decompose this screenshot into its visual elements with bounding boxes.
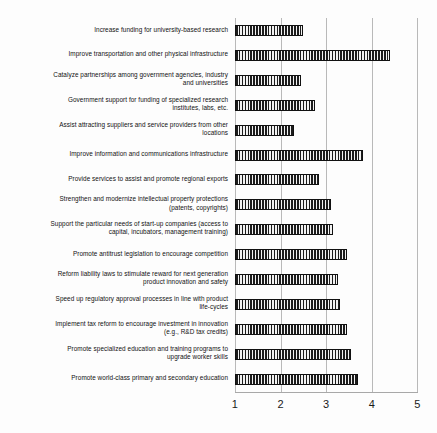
chart-row: Reform liability laws to stimulate rewar… bbox=[0, 267, 437, 292]
bar bbox=[235, 274, 338, 285]
bar bbox=[235, 349, 351, 360]
category-label-line2: capital, incubators, management training… bbox=[23, 228, 228, 236]
category-label: Support the particular needs of start-up… bbox=[23, 220, 228, 236]
bar bbox=[235, 100, 315, 111]
category-label-line1: Assist attracting suppliers and service … bbox=[23, 121, 228, 129]
category-label-line2: (patents, copyrights) bbox=[23, 204, 228, 212]
category-label-line1: Speed up regulatory approval processes i… bbox=[23, 295, 228, 303]
chart-row: Increase funding for university-based re… bbox=[0, 18, 437, 43]
bar bbox=[235, 249, 347, 260]
category-label: Provide services to assist and promote r… bbox=[23, 175, 228, 183]
category-label-line2: and universities bbox=[23, 79, 228, 87]
chart-row: Improve information and communications i… bbox=[0, 143, 437, 168]
bar bbox=[235, 374, 358, 385]
category-label-line2: upgrade worker skills bbox=[23, 353, 228, 361]
category-label-line1: Improve transportation and other physica… bbox=[23, 50, 228, 58]
category-label: Strengthen and modernize intellectual pr… bbox=[23, 195, 228, 211]
category-label: Promote antitrust legislation to encoura… bbox=[23, 250, 228, 258]
category-label-line2: product innovation and safety bbox=[23, 278, 228, 286]
category-label-line1: Implement tax reform to encourage invest… bbox=[23, 320, 228, 328]
category-label-line1: Increase funding for university-based re… bbox=[23, 26, 228, 34]
category-label-line2: locations bbox=[23, 129, 228, 137]
category-label-line1: Strengthen and modernize intellectual pr… bbox=[23, 195, 228, 203]
chart-row: Implement tax reform to encourage invest… bbox=[0, 317, 437, 342]
chart-page: 12345Increase funding for university-bas… bbox=[0, 0, 437, 433]
category-label: Speed up regulatory approval processes i… bbox=[23, 295, 228, 311]
category-label-line1: Reform liability laws to stimulate rewar… bbox=[23, 270, 228, 278]
chart-row: Provide services to assist and promote r… bbox=[0, 167, 437, 192]
bar bbox=[235, 125, 294, 136]
chart-row: Promote antitrust legislation to encoura… bbox=[0, 242, 437, 267]
category-label: Assist attracting suppliers and service … bbox=[23, 121, 228, 137]
category-label-line1: Improve information and communications i… bbox=[23, 150, 228, 158]
category-label-line2: institutes, labs, etc. bbox=[23, 104, 228, 112]
category-label: Catalyze partnerships among government a… bbox=[23, 71, 228, 87]
category-label-line2: (e.g., R&D tax credits) bbox=[23, 328, 228, 336]
category-label-line1: Provide services to assist and promote r… bbox=[23, 175, 228, 183]
category-label: Promote world-class primary and secondar… bbox=[23, 374, 228, 382]
chart-row: Government support for funding of specia… bbox=[0, 93, 437, 118]
x-axis-line bbox=[235, 392, 418, 393]
x-axis-tick-label: 4 bbox=[357, 398, 387, 410]
chart-row: Promote specialized education and traini… bbox=[0, 342, 437, 367]
chart-row: Strengthen and modernize intellectual pr… bbox=[0, 192, 437, 217]
bar bbox=[235, 50, 390, 61]
category-label-line1: Support the particular needs of start-up… bbox=[23, 220, 228, 228]
x-axis-tick-label: 5 bbox=[402, 398, 432, 410]
category-label-line1: Promote antitrust legislation to encoura… bbox=[23, 250, 228, 258]
x-axis-tick-label: 1 bbox=[220, 398, 250, 410]
chart-row: Promote world-class primary and secondar… bbox=[0, 367, 437, 392]
chart-row: Support the particular needs of start-up… bbox=[0, 217, 437, 242]
category-label: Reform liability laws to stimulate rewar… bbox=[23, 270, 228, 286]
category-label-line1: Catalyze partnerships among government a… bbox=[23, 71, 228, 79]
bar bbox=[235, 75, 301, 86]
category-label: Increase funding for university-based re… bbox=[23, 26, 228, 34]
bar bbox=[235, 199, 331, 210]
category-label-line1: Promote specialized education and traini… bbox=[23, 345, 228, 353]
bar bbox=[235, 25, 303, 36]
chart-row: Catalyze partnerships among government a… bbox=[0, 68, 437, 93]
category-label-line2: life-cycles bbox=[23, 303, 228, 311]
x-axis-tick-label: 2 bbox=[266, 398, 296, 410]
category-label: Improve information and communications i… bbox=[23, 150, 228, 158]
bar bbox=[235, 174, 319, 185]
category-label: Government support for funding of specia… bbox=[23, 96, 228, 112]
category-label: Improve transportation and other physica… bbox=[23, 50, 228, 58]
chart-row: Improve transportation and other physica… bbox=[0, 43, 437, 68]
bar bbox=[235, 299, 340, 310]
bar-chart-plot-area: 12345Increase funding for university-bas… bbox=[0, 0, 437, 433]
bar bbox=[235, 150, 363, 161]
chart-row: Speed up regulatory approval processes i… bbox=[0, 292, 437, 317]
category-label: Promote specialized education and traini… bbox=[23, 345, 228, 361]
bar bbox=[235, 324, 347, 335]
category-label-line1: Government support for funding of specia… bbox=[23, 96, 228, 104]
bar bbox=[235, 224, 333, 235]
x-axis-tick-label: 3 bbox=[311, 398, 341, 410]
category-label: Implement tax reform to encourage invest… bbox=[23, 320, 228, 336]
chart-row: Assist attracting suppliers and service … bbox=[0, 118, 437, 143]
category-label-line1: Promote world-class primary and secondar… bbox=[23, 374, 228, 382]
